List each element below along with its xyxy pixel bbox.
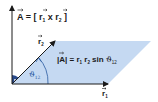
svg-text:A = [ r1 x r2 ]: A = [ r1 x r2 ]: [17, 12, 67, 23]
svg-text:r1: r1: [102, 89, 108, 99]
r1-label: r1: [102, 88, 108, 100]
vector-arrow-icon: [18, 9, 24, 11]
title-formula: A = [ r1 x r2 ]: [17, 9, 67, 23]
vector-arrow-icon: [63, 9, 67, 11]
svg-text:r2: r2: [38, 37, 44, 47]
r2-label: r2: [38, 35, 44, 47]
vector-arrow-icon: [43, 9, 47, 11]
cross-product-diagram: A = [ r1 x r2 ] r2 |A| = r1 r2 sin ϑ12 ϑ…: [0, 0, 158, 102]
svg-text:|A| = r1 r2 sin ϑ12: |A| = r1 r2 sin ϑ12: [57, 55, 117, 65]
